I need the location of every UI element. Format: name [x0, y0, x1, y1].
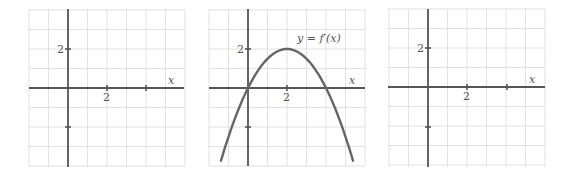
x-tick-label: 2 [463, 90, 470, 103]
curve-label: y = f′(x) [296, 32, 341, 45]
x-tick-label: 2 [283, 91, 290, 104]
y-tick-label: 2 [237, 43, 244, 56]
x-axis-label: x [529, 73, 536, 86]
y-tick-label: 2 [57, 43, 64, 56]
middle-derivative-graph: 2 2 x y = f′(x) [180, 0, 372, 180]
y-tick-label: 2 [417, 42, 424, 55]
x-axis-label: x [168, 74, 175, 87]
left-blank-graph: 2 2 x [0, 0, 192, 180]
graph-canvas: 2 2 x [0, 0, 192, 180]
graph-canvas: 2 2 x y = f′(x) [180, 0, 376, 180]
graph-canvas: 2 2 x [360, 0, 556, 180]
right-blank-graph: 2 2 x [360, 0, 552, 180]
x-tick-label: 2 [103, 91, 110, 104]
x-axis-label: x [349, 74, 356, 87]
